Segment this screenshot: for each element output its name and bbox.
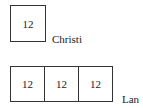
lan-box: 12 [78, 66, 113, 102]
lan-box: 12 [10, 66, 45, 102]
christi-box-value: 12 [23, 18, 34, 30]
lan-boxes: 12 12 12 [10, 66, 113, 102]
lan-label: Lan [122, 93, 139, 105]
lan-box-value: 12 [90, 78, 101, 90]
lan-box: 12 [44, 66, 79, 102]
christi-label: Christi [52, 33, 82, 45]
christi-box: 12 [10, 5, 46, 42]
lan-box-value: 12 [56, 78, 67, 90]
lan-box-value: 12 [22, 78, 33, 90]
